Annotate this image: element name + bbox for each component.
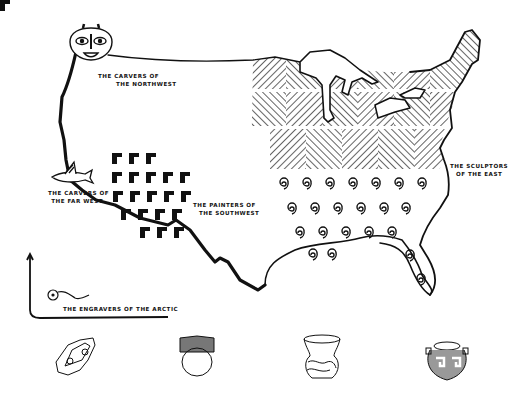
artifact-fret-jar: [426, 342, 468, 380]
label-east: THE SCULPTORS OF THE EAST: [450, 163, 508, 178]
label-far-west: THE CARVERS OF THE FAR WEST: [48, 190, 109, 205]
label-arctic: THE ENGRAVERS OF THE ARCTIC: [63, 306, 178, 314]
label-southwest: THE PAINTERS OF THE SOUTHWEST: [193, 202, 259, 217]
engraved-harpoon-icon: [48, 290, 89, 300]
artifact-hatched-bowl: [180, 336, 214, 376]
label-northwest: THE CARVERS OF THE NORTHWEST: [98, 73, 177, 88]
artifact-engraved-stone: [56, 338, 95, 375]
artifact-swirl-vase: [304, 335, 340, 378]
east-hatch-pattern: [250, 20, 485, 169]
carved-fish-icon: [52, 162, 93, 183]
carved-mask-icon: [70, 24, 112, 60]
